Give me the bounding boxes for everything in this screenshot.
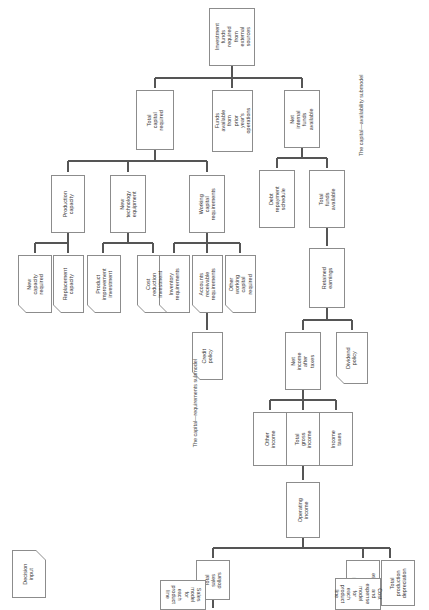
node-total-gross-income[interactable]: Totalgrossincome [286, 412, 320, 466]
node-label: Totalcapitalrequired [146, 110, 165, 130]
node-label: Inventoryrequirements [168, 268, 180, 300]
node-label: Newcapacityrequired [26, 274, 45, 294]
node-accounts-receivable-requirements[interactable]: Accountsreceivablerequirements [192, 255, 223, 313]
legend-decision-input: Decisioninput [12, 550, 46, 598]
node-label: Fundsavailablefromprioryear'soperations [214, 108, 251, 134]
node-label: Totalfundsavailable [318, 188, 337, 210]
node-retained-earnings[interactable]: Retainedearnings [309, 248, 345, 308]
node-product-improvement-investment[interactable]: Productimprovementinvestment [87, 255, 121, 313]
node-label: Totalsalesdollars [204, 572, 223, 588]
node-label: Debtrepaymentschedule [268, 186, 287, 212]
node-net-income-after-taxes[interactable]: Netincomeaftertaxes [285, 332, 321, 390]
node-other-working-capital-required[interactable]: Otherworkingcapitalrequired [225, 255, 256, 313]
node-label: Newtechnologyequipment [119, 191, 138, 218]
caption-capital-availability: The capital—availability submodel [316, 80, 406, 150]
node-label: Costandexpensemodelforeachproductline [333, 584, 383, 605]
node-label: Retainedearnings [321, 267, 333, 289]
node-working-capital-requirements[interactable]: Workingcapitalrequirements [189, 175, 225, 233]
node-label: Netinternalfundsavailable [290, 108, 315, 130]
node-inventory-requirements[interactable]: Inventoryrequirements [159, 255, 190, 313]
caption-text: The capital—requirements submodel [192, 359, 198, 447]
node-production-capacity[interactable]: Productioncapacity [51, 175, 85, 233]
legend-label: Decisioninput [23, 563, 35, 584]
node-label: Otherincome [264, 430, 276, 448]
node-new-capacity-required[interactable]: Newcapacityrequired [18, 255, 52, 313]
node-label: Replacementcapacity [62, 268, 74, 300]
node-investment-funds[interactable]: Investmentfundsrequiredfromexternalsourc… [209, 8, 255, 66]
node-income-taxes[interactable]: Incometaxes [319, 412, 353, 466]
node-label: Creditpolicy [201, 349, 213, 364]
caption-text: The capital—availability submodel [358, 74, 364, 156]
flowchart-canvas: Investmentfundsrequiredfromexternalsourc… [0, 0, 429, 610]
node-label: Investmentfundsrequiredfromexternalsourc… [213, 24, 250, 51]
node-label: Dividendpolicy [346, 347, 358, 368]
node-new-technology-equipment[interactable]: Newtechnologyequipment [110, 175, 146, 233]
node-other-income[interactable]: Otherincome [253, 412, 287, 466]
node-label: Costreductioninvestment [145, 271, 164, 298]
node-label: Accountsreceivablerequirements [198, 268, 217, 300]
node-cost-expense-model[interactable]: Costandexpensemodelforeachproductline [335, 578, 381, 610]
node-label: Incometaxes [330, 430, 342, 448]
node-label: Productimprovementinvestment [95, 268, 114, 300]
node-debt-repayment-schedule[interactable]: Debtrepaymentschedule [259, 170, 295, 228]
node-label: Otherworkingcapitalrequired [228, 274, 253, 294]
node-total-capital-required[interactable]: Totalcapitalrequired [136, 90, 174, 150]
node-funds-available-prior[interactable]: Fundsavailablefromprioryear'soperations [212, 90, 253, 152]
node-label: Workingcapitalrequirements [198, 188, 217, 220]
node-label: Totalgrossincome [294, 430, 313, 448]
node-operating-income[interactable]: Operatingincome [286, 482, 320, 538]
node-label: Netincomeaftertaxes [291, 352, 316, 370]
node-dividend-policy[interactable]: Dividendpolicy [336, 332, 368, 384]
node-sales-model[interactable]: Salesmodelforeachproductline [160, 580, 206, 610]
node-label: Salesmodelforeachproductline [164, 586, 201, 604]
node-total-production-depreciation[interactable]: Totalproductiondepreciation [381, 560, 415, 606]
node-replacement-capacity[interactable]: Replacementcapacity [53, 255, 84, 313]
node-total-funds-available[interactable]: Totalfundsavailable [309, 170, 345, 228]
node-label: Operatingincome [297, 498, 309, 522]
caption-capital-requirements: The capital—requirements submodel [150, 368, 240, 438]
node-label: Totalproductiondepreciation [389, 568, 408, 598]
node-label: Productioncapacity [62, 191, 74, 217]
node-net-internal-funds[interactable]: Netinternalfundsavailable [284, 90, 320, 148]
